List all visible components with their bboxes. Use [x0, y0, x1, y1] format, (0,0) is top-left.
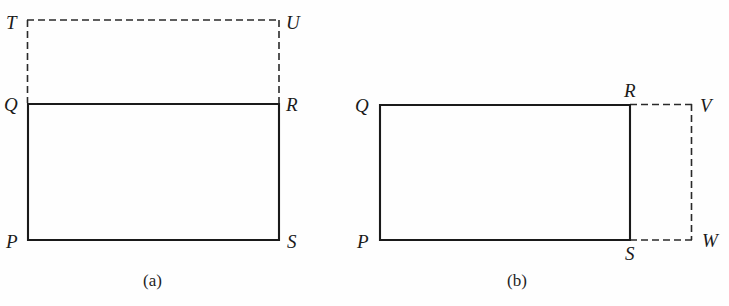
- vertex-label-b-R: R: [624, 81, 636, 100]
- vertex-label-a-U: U: [286, 13, 300, 32]
- vertex-label-b-Q: Q: [355, 96, 369, 115]
- figure-svg: [0, 0, 729, 306]
- caption-panel-a: (a): [143, 272, 162, 289]
- vertex-label-b-S: S: [625, 244, 635, 263]
- panel-b-shapes: [380, 104, 692, 240]
- rect-PQRS: [28, 104, 279, 240]
- vertex-label-a-S: S: [287, 232, 297, 251]
- panel-b-dashed-square: [630, 104, 692, 240]
- vertex-label-a-T: T: [6, 13, 17, 32]
- rect-PQRS: [380, 105, 630, 240]
- panel-a-dashed-square: [27, 20, 279, 103]
- vertex-label-a-P: P: [6, 232, 18, 251]
- vertex-label-b-W: W: [702, 231, 718, 250]
- vertex-label-b-P: P: [357, 232, 369, 251]
- vertex-label-a-Q: Q: [4, 95, 18, 114]
- figure-page: T U Q R P S Q R P S V W (a) (b): [0, 0, 729, 306]
- vertex-label-a-R: R: [286, 95, 298, 114]
- caption-panel-b: (b): [507, 272, 527, 289]
- panel-a-solid-rect: [28, 104, 279, 240]
- vertex-label-b-V: V: [700, 96, 712, 115]
- panel-a-shapes: [27, 20, 279, 240]
- panel-b-solid-rect: [380, 105, 630, 240]
- geometry-figure: [0, 0, 729, 306]
